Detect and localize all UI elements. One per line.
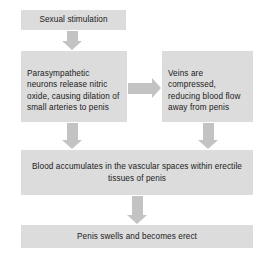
- flow-node-penis-swells: Penis swells and becomes erect: [21, 225, 253, 248]
- flow-node-sexual-stimulation: Sexual stimulation: [21, 10, 126, 30]
- flow-node-blood-accumulates: Blood accumulates in the vascular spaces…: [21, 150, 253, 195]
- arrow-head: [62, 41, 82, 50]
- flowchart-diagram: Sexual stimulation Parasympathetic neuro…: [0, 0, 276, 258]
- arrow-head: [62, 140, 82, 149]
- flow-node-label: Penis swells and becomes erect: [77, 231, 197, 242]
- flow-node-label: Sexual stimulation: [39, 14, 107, 25]
- arrow-right-icon-parasympathetic-to-veins: [128, 78, 161, 99]
- flow-node-veins-compressed: Veins are compressed, reducing blood flo…: [162, 51, 253, 122]
- arrow-shaft: [203, 123, 214, 140]
- flow-node-parasympathetic-neurons: Parasympathetic neurons release nitric o…: [21, 51, 127, 122]
- arrow-shaft: [67, 31, 78, 41]
- arrow-head: [127, 215, 147, 224]
- arrow-shaft: [67, 123, 78, 140]
- flow-node-label: Blood accumulates in the vascular spaces…: [21, 161, 253, 183]
- flow-node-label: Veins are compressed, reducing blood flo…: [168, 69, 240, 112]
- arrow-down-icon-stimulation-to-parasympathetic: [62, 31, 83, 50]
- arrow-down-icon-veins-to-blood: [198, 123, 219, 149]
- arrow-down-icon-blood-to-erect: [127, 196, 148, 224]
- arrow-head: [198, 140, 218, 149]
- arrow-down-icon-parasympathetic-to-blood: [62, 123, 83, 149]
- flow-node-label: Parasympathetic neurons release nitric o…: [27, 69, 119, 112]
- arrow-shaft: [132, 196, 143, 215]
- arrow-head: [152, 78, 161, 98]
- arrow-shaft: [128, 83, 152, 94]
